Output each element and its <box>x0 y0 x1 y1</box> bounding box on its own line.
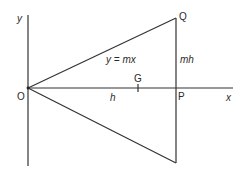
y-axis-label: y <box>17 14 22 24</box>
centroid-label: G <box>134 74 142 84</box>
diagram-canvas: y Q y = mx mh G O h P x <box>0 0 246 176</box>
line-o-bottom <box>28 88 176 163</box>
base-segment-label: h <box>110 93 116 103</box>
point-q-label: Q <box>179 12 187 22</box>
line-equation-label: y = mx <box>106 55 136 65</box>
origin-dot <box>27 87 30 90</box>
height-segment-label: mh <box>180 55 194 65</box>
diagram-lines <box>0 0 246 176</box>
line-oq <box>28 18 176 88</box>
x-axis-label: x <box>226 93 231 103</box>
point-p-label: P <box>178 92 185 102</box>
origin-label: O <box>17 92 25 102</box>
